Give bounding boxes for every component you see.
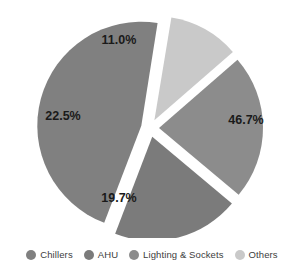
legend-item[interactable]: Lighting & Sockets — [129, 250, 224, 260]
legend-item-label: Lighting & Sockets — [143, 250, 224, 260]
pie-slice-label: 22.5% — [45, 109, 80, 123]
legend-swatch-circle-icon — [129, 250, 139, 260]
legend-item[interactable]: Chillers — [26, 250, 72, 260]
legend-swatch-circle-icon — [235, 250, 245, 260]
pie-chart-plot-area: 46.7%19.7%22.5%11.0% — [0, 0, 304, 238]
legend-swatch-circle-icon — [84, 250, 94, 260]
pie-chart-figure: 46.7%19.7%22.5%11.0% ChillersAHULighting… — [0, 0, 304, 271]
legend-item[interactable]: Others — [235, 250, 278, 260]
legend-item-label: Others — [249, 250, 278, 260]
pie-slice-label: 19.7% — [101, 191, 136, 205]
legend-swatch-circle-icon — [26, 250, 36, 260]
pie-slice-label: 46.7% — [228, 113, 263, 127]
pie-chart-svg: 46.7%19.7%22.5%11.0% — [0, 0, 304, 238]
legend-item[interactable]: AHU — [84, 250, 118, 260]
pie-slice-group — [37, 18, 263, 238]
chart-legend: ChillersAHULighting & SocketsOthers — [0, 239, 304, 271]
legend-item-label: AHU — [98, 250, 118, 260]
legend-item-label: Chillers — [40, 250, 72, 260]
pie-slice-label: 11.0% — [102, 33, 137, 47]
